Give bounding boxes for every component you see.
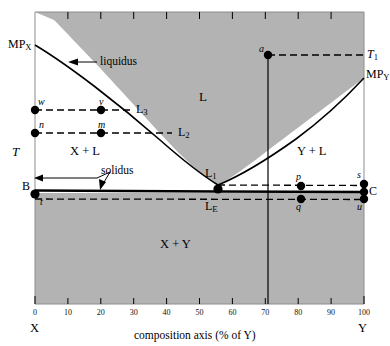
x-tick-70: 70 [253,308,277,317]
label-liquidus: liquidus [100,56,137,68]
label-region-y-plus-liquid: Y + L [297,145,327,158]
label-point-n: n [39,120,44,130]
label-l1-subscript: 1 [212,171,216,181]
point-s-marker [360,180,368,188]
x-tick-100: 100 [352,308,376,317]
label-region-x-plus-liquid: X + L [70,145,100,158]
label-l2-subscript: 2 [185,130,189,140]
label-point-s: s [357,170,361,180]
point-p-marker [297,182,305,190]
solidus-line [35,191,218,192]
label-mp-x-subscript: X [25,42,31,52]
x-tick-10: 10 [56,308,80,317]
label-point-c: C [369,185,377,197]
label-region-liquid: L [199,90,207,103]
x-tick-40: 40 [155,308,179,317]
label-region-x-plus-y: X + Y [160,238,191,251]
point-w-marker [31,106,39,114]
label-l1: L1 [205,167,217,181]
label-l3: L3 [136,103,148,117]
x-tick-0: 0 [23,308,47,317]
point-m-marker [97,129,105,137]
point-c-marker [360,188,368,196]
label-t1: T1 [367,48,378,62]
x-axis-title: composition axis (% of Y) [134,330,256,342]
x-tick-60: 60 [220,308,244,317]
tie-line-p-s [218,185,364,186]
label-axis-temperature: T [12,145,19,158]
label-point-v: v [99,97,103,107]
label-le: LE [205,200,218,214]
label-component-y: Y [358,322,367,335]
label-point-b: B [22,180,30,192]
label-component-x: X [30,322,39,335]
label-mp-y-subscript: Y [383,72,389,82]
point-t-marker [30,189,39,198]
label-mp-y: MPY [366,68,390,82]
point-n-marker [31,129,39,137]
label-point-a: a [259,44,264,54]
label-solidus: solidus [101,165,134,177]
point-eutectic-marker [213,184,222,193]
label-point-w: w [38,97,45,107]
x-tick-30: 30 [122,308,146,317]
x-tick-20: 20 [89,308,113,317]
label-le-subscript: E [212,204,217,214]
label-mp-x: MPX [8,38,32,52]
label-l2: L2 [178,126,190,140]
label-l3-subscript: 3 [143,107,147,117]
label-point-m: m [98,120,105,130]
label-point-p: p [296,172,301,182]
liquidus-leader-arrow [68,59,78,66]
x-tick-50: 50 [188,308,212,317]
eutectic-isotherm-right [218,192,364,193]
label-point-q: q [296,202,301,212]
x-tick-80: 80 [286,308,310,317]
x-tick-90: 90 [319,308,343,317]
point-v-marker [97,106,105,114]
label-point-u: u [357,202,362,212]
point-a-marker [264,51,272,59]
label-t1-subscript: 1 [374,52,378,62]
x-plus-y-field-shading [35,193,364,304]
label-point-t: t [40,197,43,207]
